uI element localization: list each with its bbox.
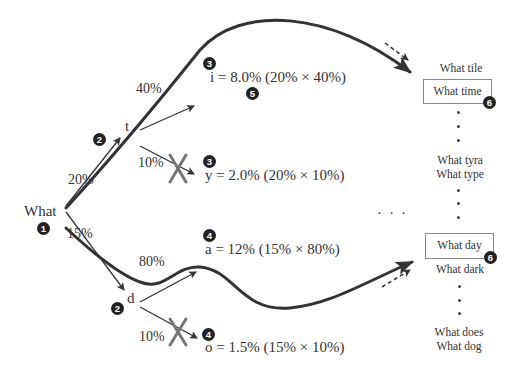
prune-crosses (170, 155, 186, 345)
step-badge-6-top: 6 (483, 96, 496, 109)
ellipsis: · · · (377, 206, 408, 222)
result-what-tyra: What tyra (426, 154, 494, 167)
prob-i: 40% (136, 81, 162, 97)
beam-paths (66, 20, 412, 308)
step-badge-5: 5 (246, 87, 259, 100)
dot (458, 285, 461, 288)
prob-t: 20% (68, 172, 94, 188)
arrow-t-to-i (140, 106, 194, 130)
result-what-time: What time (424, 85, 491, 98)
result-what-dog: What dog (424, 340, 494, 353)
step-badge-2-t: 2 (93, 133, 106, 146)
result-what-day: What day (426, 239, 493, 252)
dot (457, 202, 460, 205)
dot (458, 312, 461, 315)
node-t: t (125, 118, 129, 134)
dot (457, 189, 460, 192)
formula-a: a = 12% (15% × 80%) (205, 241, 340, 257)
result-what-tile: What tile (428, 62, 494, 75)
root-label: What (24, 203, 56, 219)
prob-a: 80% (139, 254, 165, 270)
dot (457, 111, 460, 114)
prob-y: 10% (138, 155, 164, 171)
dashed-arrows (382, 43, 410, 287)
prob-o: 10% (139, 329, 165, 345)
formula-i: i = 8.0% (20% × 40%) (210, 69, 346, 85)
dot (457, 216, 460, 219)
result-what-dark: What dark (426, 263, 494, 276)
formula-y: y = 2.0% (20% × 10%) (205, 167, 344, 183)
dot (457, 139, 460, 142)
step-badge-1: 1 (37, 222, 50, 235)
dot (458, 299, 461, 302)
prob-d: 15% (67, 226, 93, 242)
formula-o: o = 1.5% (15% × 10%) (205, 339, 344, 355)
result-box-what-time: What time (423, 79, 492, 104)
dot (457, 125, 460, 128)
node-d: d (127, 290, 135, 306)
result-what-does: What does (424, 326, 494, 339)
step-badge-2-d: 2 (111, 302, 124, 315)
arrow-d-to-a (140, 272, 196, 302)
arrow-what-to-d (66, 212, 124, 290)
result-what-type: What type (426, 168, 494, 181)
